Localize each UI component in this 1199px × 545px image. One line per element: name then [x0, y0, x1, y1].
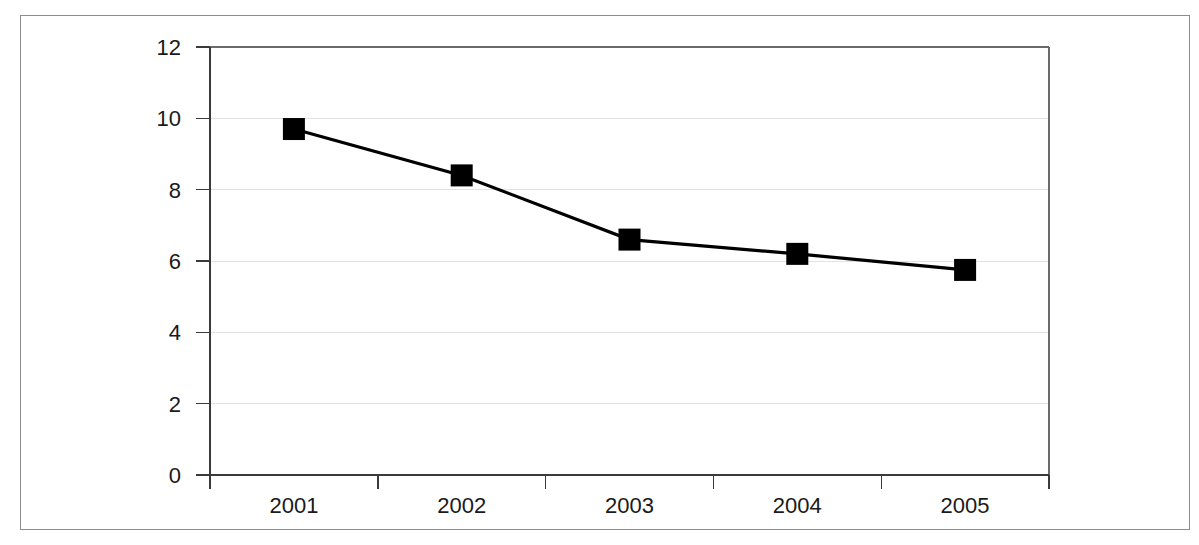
y-tick-label: 0: [169, 463, 181, 488]
y-tick-label: 4: [169, 320, 181, 345]
x-tick-label: 2001: [269, 493, 318, 518]
x-axis-ticks: 20012002200320042005: [210, 475, 1049, 518]
x-tick-label: 2005: [941, 493, 990, 518]
x-tick-label: 2004: [773, 493, 822, 518]
data-point-marker: [451, 164, 473, 186]
y-tick-label: 12: [157, 35, 181, 60]
chart-figure: 024681012 20012002200320042005: [0, 0, 1199, 545]
data-point-marker: [786, 243, 808, 265]
y-tick-label: 10: [157, 106, 181, 131]
x-tick-label: 2002: [437, 493, 486, 518]
data-point-marker: [619, 229, 641, 251]
y-axis-ticks: 024681012: [157, 35, 210, 488]
y-tick-label: 6: [169, 249, 181, 274]
x-tick-label: 2003: [605, 493, 654, 518]
y-tick-label: 8: [169, 178, 181, 203]
y-tick-label: 2: [169, 392, 181, 417]
data-point-marker: [283, 118, 305, 140]
line-chart: 024681012 20012002200320042005: [0, 0, 1199, 545]
data-point-marker: [954, 259, 976, 281]
